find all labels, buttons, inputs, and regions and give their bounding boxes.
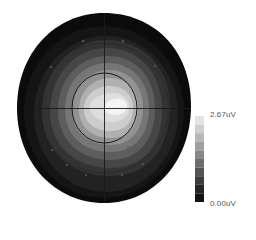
- electrode-dot: [85, 174, 87, 176]
- colorbar-step: [195, 133, 204, 142]
- colorbar-min-label: 0.00uV: [210, 199, 236, 208]
- colorbar-step: [195, 116, 204, 125]
- electrode-dot: [66, 164, 68, 166]
- electrode-dot: [50, 66, 52, 68]
- colorbar-step: [195, 159, 204, 168]
- electrode-dot: [51, 149, 53, 151]
- electrode-dot: [122, 40, 124, 42]
- colorbar-step: [195, 142, 204, 151]
- electrode-dot: [142, 163, 144, 165]
- electrode-dot: [127, 146, 129, 148]
- electrode-dot: [154, 65, 156, 67]
- electrode-dot: [121, 174, 123, 176]
- colorbar: [195, 116, 204, 202]
- electrode-dot: [82, 40, 84, 42]
- colorbar-step: [195, 125, 204, 134]
- electrode-dot: [126, 66, 128, 68]
- colorbar-step: [195, 150, 204, 159]
- colorbar-step: [195, 193, 204, 202]
- colorbar-step: [195, 176, 204, 185]
- colorbar-max-label: 2.67uV: [210, 110, 236, 119]
- colorbar-step: [195, 168, 204, 177]
- colorbar-step: [195, 185, 204, 194]
